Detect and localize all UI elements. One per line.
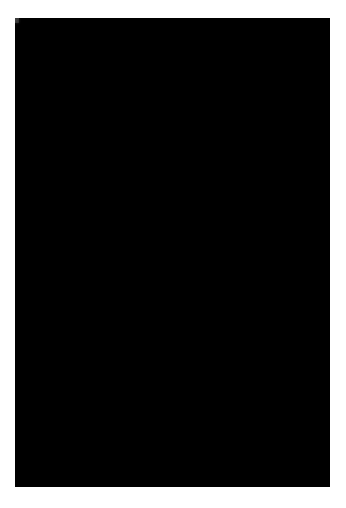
page-canvas: mammogram-radiograph: [0, 0, 346, 508]
radiograph-canvas: [15, 18, 330, 487]
mammogram-image: [15, 18, 330, 487]
